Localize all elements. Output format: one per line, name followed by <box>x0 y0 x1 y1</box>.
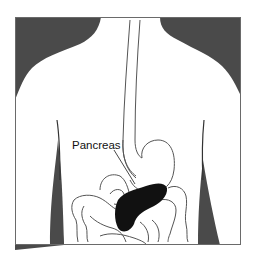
anatomy-diagram: Pancreas <box>0 0 257 261</box>
pancreas-label: Pancreas <box>72 139 121 151</box>
